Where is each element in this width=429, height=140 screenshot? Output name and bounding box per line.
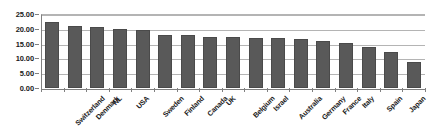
x-tickmark	[177, 88, 178, 92]
y-tick-label: 0.00	[20, 84, 34, 93]
x-tickmark	[335, 88, 336, 92]
y-axis: 25.0020.0015.0010.005.000.00	[0, 14, 39, 88]
bar-slot	[267, 14, 290, 88]
y-tickmark	[35, 14, 39, 15]
x-tickmark	[357, 88, 358, 92]
x-tickmark	[64, 88, 65, 92]
y-tickmark	[35, 58, 39, 59]
x-tick-label: Japan	[407, 94, 428, 115]
bar	[181, 35, 195, 88]
bar	[136, 30, 150, 88]
x-tickmark	[312, 88, 313, 92]
bar	[316, 41, 330, 88]
x-tickmark	[86, 88, 87, 92]
bar	[362, 47, 376, 88]
bar-slot	[177, 14, 200, 88]
x-tickmark	[425, 88, 426, 92]
bar-slot	[109, 14, 132, 88]
y-tickmark	[35, 88, 39, 89]
x-tick-label: Italy	[360, 94, 376, 110]
x-tickmark	[41, 88, 42, 92]
x-tickmark	[109, 88, 110, 92]
bar	[226, 37, 240, 88]
x-tickmark	[222, 88, 223, 92]
bar	[90, 27, 104, 88]
bar-slot	[41, 14, 64, 88]
bar-slot	[289, 14, 312, 88]
x-tickmark	[402, 88, 403, 92]
bar-slot	[131, 14, 154, 88]
bar-slot	[199, 14, 222, 88]
bar-slot	[244, 14, 267, 88]
bar-slot	[222, 14, 245, 88]
bar-slot	[154, 14, 177, 88]
bar-slot	[357, 14, 380, 88]
y-tick-label: 15.00	[16, 39, 34, 48]
bar-slot	[380, 14, 403, 88]
x-tickmark	[267, 88, 268, 92]
bar	[158, 35, 172, 88]
bar	[384, 52, 398, 88]
y-tick-label: 5.00	[20, 69, 34, 78]
bar	[271, 38, 285, 88]
y-tickmark	[35, 73, 39, 74]
bar	[113, 29, 127, 88]
bar	[68, 26, 82, 88]
x-tickmark	[131, 88, 132, 92]
bar-series	[41, 14, 425, 88]
bar-slot	[402, 14, 425, 88]
y-tick-label: 20.00	[16, 24, 34, 33]
bar	[339, 43, 353, 88]
bar-slot	[86, 14, 109, 88]
x-tick-label: Spain	[384, 94, 404, 114]
x-tickmark	[289, 88, 290, 92]
y-tickmark	[35, 29, 39, 30]
bar-chart: 25.0020.0015.0010.005.000.00 Switzerland…	[0, 0, 429, 140]
bar	[203, 37, 217, 89]
x-tickmark	[154, 88, 155, 92]
bar	[294, 39, 308, 88]
y-tick-label: 10.00	[16, 54, 34, 63]
y-tickmark	[35, 44, 39, 45]
bar	[407, 62, 421, 88]
x-tick-label: Finland	[183, 94, 207, 118]
bar-slot	[64, 14, 87, 88]
x-tickmark	[380, 88, 381, 92]
x-tickmark	[199, 88, 200, 92]
x-axis: SwitzerlandDenmarkNLUSASwedenFinlandCana…	[41, 88, 425, 140]
bar	[249, 38, 263, 88]
bar	[45, 22, 59, 88]
x-tickmark	[244, 88, 245, 92]
y-tick-label: 25.00	[16, 10, 34, 19]
bar-slot	[312, 14, 335, 88]
x-tick-label: USA	[135, 94, 152, 111]
x-tick-label: Sweden	[160, 94, 185, 119]
x-tick-label: Australia	[297, 94, 324, 121]
bar-slot	[335, 14, 358, 88]
